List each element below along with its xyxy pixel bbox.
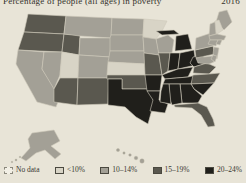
alaska-aleutian-island xyxy=(19,156,21,158)
state-wa xyxy=(24,14,66,34)
legend-label: 20–24% xyxy=(217,166,242,174)
legend-swatch-lt10 xyxy=(55,167,64,174)
hawaii-island xyxy=(129,154,132,157)
state-or xyxy=(18,32,64,52)
legend-label: 10–14% xyxy=(112,166,137,174)
state-wy xyxy=(79,38,111,57)
state-nc xyxy=(191,73,220,84)
state-fl xyxy=(174,103,215,127)
state-wi xyxy=(156,35,174,53)
legend-label: No data xyxy=(16,166,40,174)
state-sd xyxy=(110,35,144,51)
state-co xyxy=(78,55,110,78)
map-title-row: Percentage of people (all ages) in pover… xyxy=(0,0,246,6)
alaska-aleutian-island xyxy=(11,161,13,163)
legend-item-20-24: 20–24% xyxy=(205,166,242,174)
scanned-map-page: Percentage of people (all ages) in pover… xyxy=(0,0,246,183)
map-title: Percentage of people (all ages) in pover… xyxy=(3,0,161,6)
legend-item-no-data: No data xyxy=(4,166,40,174)
hawaii-island xyxy=(123,152,125,154)
state-mi-lower xyxy=(175,34,192,51)
hawaii-island xyxy=(140,159,144,163)
state-ar xyxy=(145,75,162,91)
state-ks xyxy=(107,62,147,75)
state-ms xyxy=(160,84,171,104)
hawaii-island xyxy=(134,156,138,160)
legend-item-15-19: 15–19% xyxy=(153,166,190,174)
hawaii-island xyxy=(116,148,119,151)
state-vt xyxy=(209,22,216,36)
legend-item-10-14: 10–14% xyxy=(100,166,137,174)
state-nm xyxy=(77,78,109,105)
state-nd xyxy=(111,18,144,35)
legend-swatch-15-19 xyxy=(153,167,162,174)
legend-item-lt10: <10% xyxy=(55,166,85,174)
state-mt xyxy=(64,16,112,38)
state-mn xyxy=(143,19,167,39)
legend-label: <10% xyxy=(67,166,85,174)
state-ut xyxy=(60,52,79,78)
map-title-year: 2016 xyxy=(221,0,240,6)
legend-swatch-no-data xyxy=(4,167,13,174)
legend-swatch-20-24 xyxy=(205,167,214,174)
state-ak xyxy=(21,130,61,161)
legend-label: 15–19% xyxy=(165,166,190,174)
state-az xyxy=(54,78,78,105)
state-id xyxy=(62,34,80,55)
alaska-aleutian-island xyxy=(15,159,17,161)
legend-swatch-10-14 xyxy=(100,167,109,174)
map-container xyxy=(3,7,243,165)
us-choropleth-map xyxy=(3,7,243,165)
map-legend: No data <10% 10–14% 15–19% 20–24% xyxy=(4,166,242,174)
